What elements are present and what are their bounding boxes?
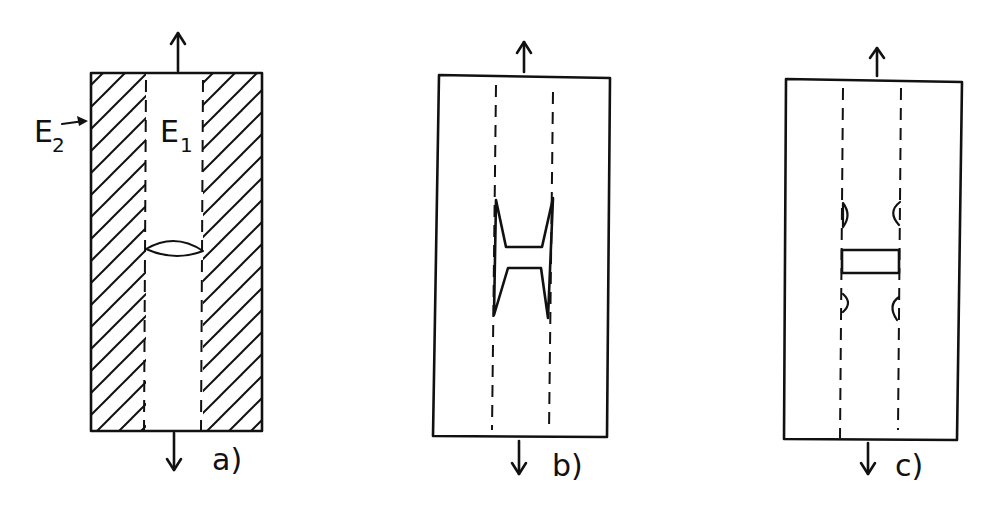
load-arrow-down-c: [861, 443, 875, 474]
specimen-outline-b: [433, 75, 610, 437]
load-arrow-up-a: [171, 33, 185, 71]
hatched-strip-left: [91, 73, 146, 431]
svg-text:2: 2: [52, 133, 65, 157]
panel-a: E 2 E 1 a): [34, 33, 262, 477]
panel-label-c: c): [895, 448, 923, 483]
svg-text:1: 1: [180, 133, 193, 157]
lens-crack: [146, 241, 203, 256]
panel-b: b): [433, 42, 610, 483]
label-e2: E 2: [34, 114, 88, 157]
load-arrow-down-b: [512, 441, 526, 474]
flaw-top-left: [843, 203, 848, 227]
hatched-strip-right: [203, 73, 262, 431]
figure-canvas: E 2 E 1 a) b): [0, 0, 987, 508]
flaw-bottom-left: [843, 294, 848, 312]
load-arrow-up-b: [517, 42, 531, 72]
panel-label-a: a): [212, 442, 242, 477]
strip-boundary-right-a: [201, 80, 203, 430]
pointer-arrow-icon: [77, 116, 88, 126]
specimen-outline-c: [784, 79, 962, 440]
h-shaped-crack: [494, 198, 553, 318]
load-arrow-down-a: [167, 433, 181, 470]
svg-text:E: E: [34, 114, 53, 149]
svg-text:E: E: [160, 114, 179, 149]
rectangular-crack: [842, 250, 899, 273]
panel-c: c): [784, 48, 962, 483]
load-arrow-up-c: [870, 48, 884, 76]
label-e1: E 1: [160, 114, 193, 157]
panel-label-b: b): [552, 448, 583, 483]
